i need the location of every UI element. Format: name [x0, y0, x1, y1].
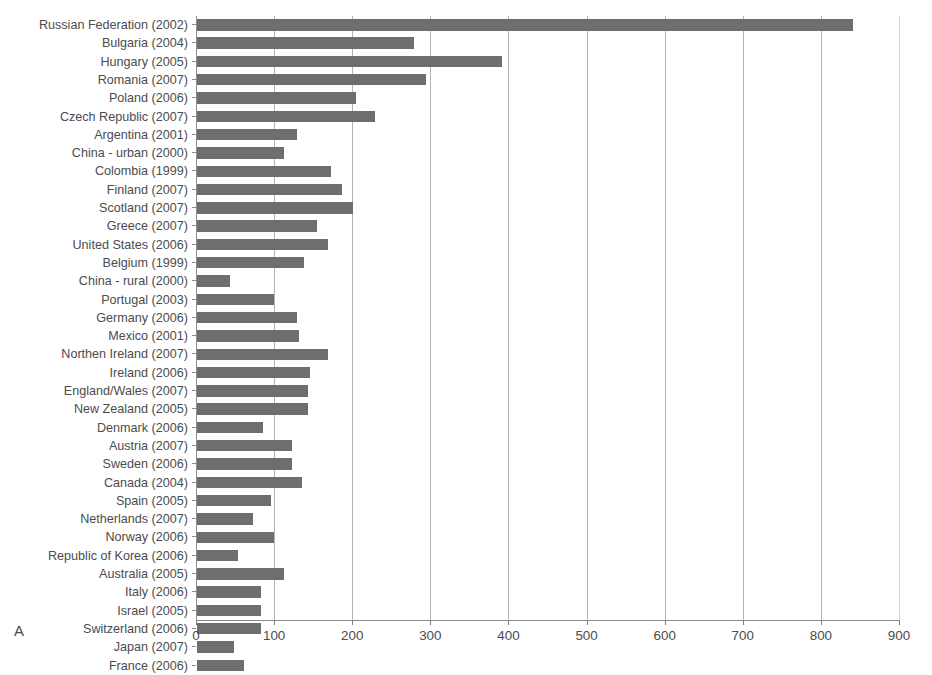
category-label: Netherlands (2007) [0, 510, 188, 528]
category-label: Ireland (2006) [0, 364, 188, 382]
bar [197, 129, 297, 140]
category-label: Poland (2006) [0, 89, 188, 107]
category-label: France (2006) [0, 657, 188, 675]
category-label: Scotland (2007) [0, 199, 188, 217]
bar [197, 330, 299, 341]
y-tick-mark [192, 445, 196, 446]
bar-row: Hungary (2005) [0, 53, 932, 71]
category-label: Spain (2005) [0, 492, 188, 510]
bar [197, 641, 234, 652]
x-tick-mark-0 [196, 621, 197, 625]
y-tick-mark [192, 97, 196, 98]
y-tick-mark [192, 665, 196, 666]
x-tick-label-200: 200 [332, 628, 372, 643]
bar [197, 385, 308, 396]
bar-row: China - urban (2000) [0, 144, 932, 162]
bar-row: New Zealand (2005) [0, 400, 932, 418]
category-label: Germany (2006) [0, 309, 188, 327]
category-label: Sweden (2006) [0, 455, 188, 473]
category-label: Japan (2007) [0, 638, 188, 656]
bar [197, 294, 274, 305]
category-label: Italy (2006) [0, 583, 188, 601]
x-tick-label-500: 500 [567, 628, 607, 643]
y-tick-mark [192, 24, 196, 25]
y-tick-mark [192, 463, 196, 464]
y-tick-mark [192, 610, 196, 611]
bar-row: Ireland (2006) [0, 364, 932, 382]
x-tick-mark-400 [508, 621, 509, 625]
y-tick-mark [192, 408, 196, 409]
y-tick-mark [192, 536, 196, 537]
bar-row: Argentina (2001) [0, 126, 932, 144]
bar-row: Scotland (2007) [0, 199, 932, 217]
bar-row: Russian Federation (2002) [0, 16, 932, 34]
bar-row: Republic of Korea (2006) [0, 547, 932, 565]
bar-row: Japan (2007) [0, 638, 932, 656]
bar-row: Israel (2005) [0, 602, 932, 620]
bar-row: Canada (2004) [0, 474, 932, 492]
bar-row: Greece (2007) [0, 217, 932, 235]
category-label: Bulgaria (2004) [0, 34, 188, 52]
x-tick-label-300: 300 [410, 628, 450, 643]
category-label: Greece (2007) [0, 217, 188, 235]
bar [197, 92, 356, 103]
category-label: Romania (2007) [0, 71, 188, 89]
bar [197, 349, 328, 360]
y-tick-mark [192, 335, 196, 336]
bar-row: Austria (2007) [0, 437, 932, 455]
y-tick-mark [192, 299, 196, 300]
bar [197, 403, 308, 414]
bar-row: Mexico (2001) [0, 327, 932, 345]
bar-row: Colombia (1999) [0, 162, 932, 180]
y-tick-mark [192, 317, 196, 318]
x-tick-mark-300 [430, 621, 431, 625]
bar [197, 19, 853, 30]
bar [197, 37, 414, 48]
y-tick-mark [192, 116, 196, 117]
bar [197, 56, 502, 67]
bar-row: Spain (2005) [0, 492, 932, 510]
bar-row: Belgium (1999) [0, 254, 932, 272]
y-tick-mark [192, 390, 196, 391]
bar [197, 586, 261, 597]
bar-row: Portugal (2003) [0, 291, 932, 309]
bar-row: Netherlands (2007) [0, 510, 932, 528]
bar [197, 74, 426, 85]
bar [197, 257, 304, 268]
y-tick-mark [192, 353, 196, 354]
bar [197, 660, 244, 671]
bar [197, 477, 302, 488]
bar-row: Poland (2006) [0, 89, 932, 107]
y-tick-mark [192, 280, 196, 281]
y-tick-mark [192, 262, 196, 263]
category-label: Northen Ireland (2007) [0, 345, 188, 363]
category-label: Hungary (2005) [0, 53, 188, 71]
x-tick-label-900: 900 [879, 628, 919, 643]
bar [197, 166, 331, 177]
bar [197, 458, 292, 469]
bar-row: Denmark (2006) [0, 419, 932, 437]
bar [197, 111, 375, 122]
bar-row: Australia (2005) [0, 565, 932, 583]
y-tick-mark [192, 207, 196, 208]
bar-row: United States (2006) [0, 236, 932, 254]
category-label: China - rural (2000) [0, 272, 188, 290]
x-tick-mark-200 [352, 621, 353, 625]
x-tick-mark-500 [587, 621, 588, 625]
bar [197, 440, 292, 451]
bar-row: China - rural (2000) [0, 272, 932, 290]
category-label: Denmark (2006) [0, 419, 188, 437]
category-label: United States (2006) [0, 236, 188, 254]
bar [197, 568, 284, 579]
bar-row: Sweden (2006) [0, 455, 932, 473]
category-label: Mexico (2001) [0, 327, 188, 345]
category-label: China - urban (2000) [0, 144, 188, 162]
x-tick-mark-100 [274, 621, 275, 625]
bar [197, 550, 238, 561]
bar-row: Northen Ireland (2007) [0, 345, 932, 363]
bar-row: Italy (2006) [0, 583, 932, 601]
category-label: Republic of Korea (2006) [0, 547, 188, 565]
y-tick-mark [192, 372, 196, 373]
category-label: Portugal (2003) [0, 291, 188, 309]
